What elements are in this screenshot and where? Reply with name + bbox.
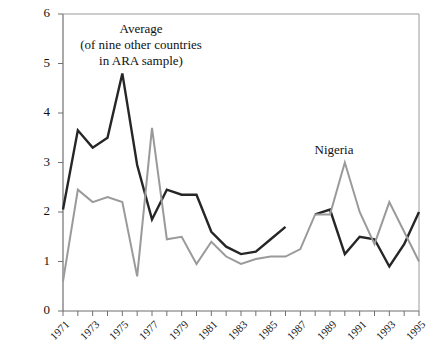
y-tick-label: 1 <box>26 253 50 269</box>
y-tick-label: 3 <box>26 154 50 170</box>
annotation-line: Average <box>46 21 236 37</box>
chart-container: 0123456 19711973197519771979198119831985… <box>0 0 440 351</box>
average-annotation: Average(of nine other countriesin ARA sa… <box>46 21 236 69</box>
data-series-layer <box>63 73 419 281</box>
annotation-line: Nigeria <box>292 142 376 158</box>
x-axis-ticks <box>63 311 419 316</box>
annotation-line: in ARA sample) <box>46 53 236 69</box>
y-tick-label: 6 <box>26 5 50 21</box>
nigeria-annotation: Nigeria <box>292 142 376 158</box>
series-line <box>63 73 286 254</box>
series-line <box>315 210 419 267</box>
y-tick-label: 4 <box>26 104 50 120</box>
y-tick-label: 0 <box>26 302 50 318</box>
annotation-line: (of nine other countries <box>46 37 236 53</box>
y-tick-label: 2 <box>26 203 50 219</box>
